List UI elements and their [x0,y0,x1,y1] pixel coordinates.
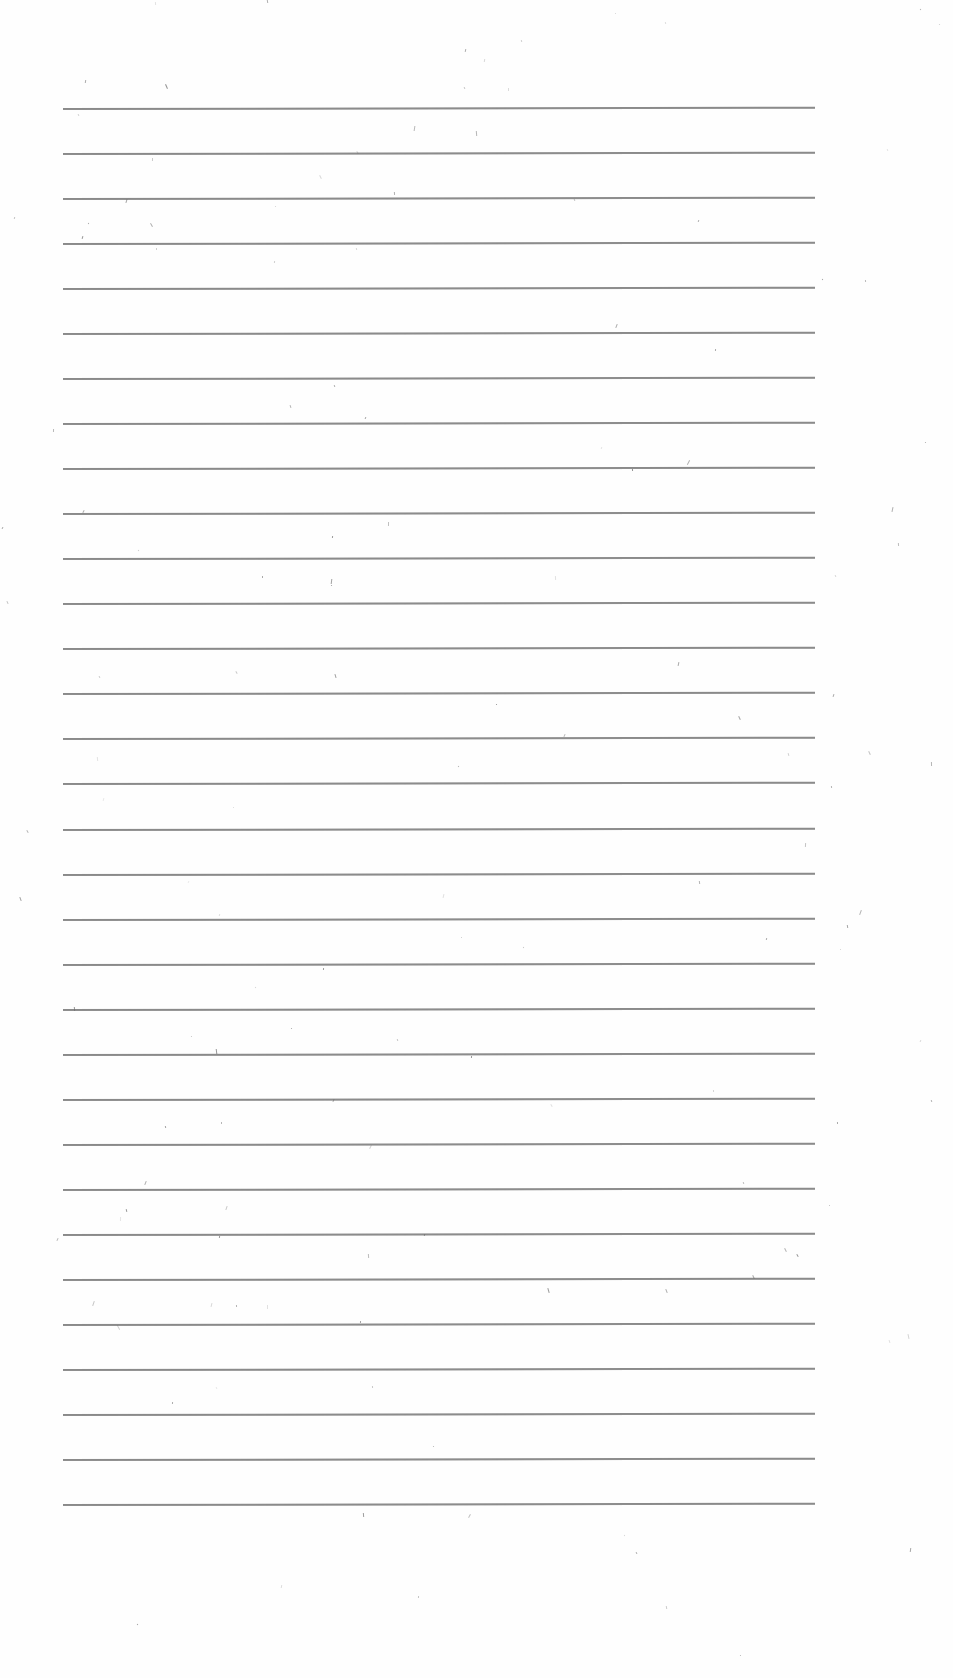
speck [255,987,256,988]
speck [433,1446,434,1447]
speck [476,131,477,136]
speck [665,22,666,24]
speck [233,807,234,808]
speck [743,1182,745,1184]
speck [698,220,700,222]
speck [508,88,509,91]
speck [19,897,21,901]
speck [889,1340,891,1343]
speck [363,1513,364,1517]
ruled-line [63,1008,815,1011]
speck [356,248,357,250]
speck [471,1056,472,1058]
speck [788,753,790,756]
speck [461,937,462,938]
speck [624,1535,625,1536]
speck [267,1305,268,1309]
speck [443,894,445,898]
speck [332,536,333,538]
speck [97,757,98,761]
speck [829,1205,830,1206]
speck [14,217,16,219]
speck [847,925,848,928]
ruled-line [63,332,815,335]
speck [931,1100,933,1102]
speck [920,1040,922,1042]
speck [831,786,832,788]
speck [323,968,324,970]
speck [331,585,332,586]
speck [550,1104,552,1107]
speck [291,1028,292,1029]
speck [907,1334,909,1339]
speck [74,1007,75,1011]
speck [334,674,336,678]
speck [165,1126,166,1128]
speck [88,223,89,224]
speck [221,1122,222,1124]
ruled-line [63,287,815,290]
speck [53,429,54,432]
speck [521,40,523,42]
speck [262,576,263,578]
speck [636,1552,638,1554]
speck [555,576,556,580]
speck [188,881,190,883]
speck [898,543,899,546]
speck [632,469,633,471]
ruled-line [63,737,815,740]
ruled-line [63,422,815,425]
ruled-line [63,782,815,785]
speck [82,236,84,239]
speck [236,1305,237,1307]
speck [92,1301,95,1306]
speck [920,9,921,10]
ruled-line [63,197,815,200]
speck [523,947,524,948]
speck [137,1624,138,1625]
speck [484,59,485,62]
ruled-line [63,1413,815,1416]
speck [665,1289,667,1293]
ruled-line [63,1233,815,1236]
speck [713,1090,714,1092]
speck [666,1606,668,1609]
speck [931,762,932,766]
speck [334,385,336,387]
speck [26,830,28,833]
speck [99,676,101,678]
speck [394,192,395,195]
ruled-line [63,963,815,966]
speck [784,1248,787,1252]
speck [458,766,459,767]
speck [699,881,700,884]
speck [859,910,862,915]
speck [368,1254,369,1258]
ruled-line [63,602,815,605]
speck [822,279,823,280]
ruled-line [63,1053,815,1056]
speck [103,798,105,801]
speck [837,1122,838,1124]
speck [939,24,940,25]
ruled-line [63,557,815,560]
speck [424,1234,425,1236]
speck [191,1036,192,1037]
ruled-line [63,692,815,695]
speck [275,206,276,207]
speck [752,1275,755,1279]
ruled-line [63,242,815,245]
speck [465,49,467,52]
speck [219,1236,220,1238]
speck [372,1386,373,1388]
speck [574,199,576,201]
speck [56,1238,58,1241]
speck [418,1596,419,1598]
speck [468,1514,471,1518]
speck [805,843,806,847]
ruled-line [63,107,815,110]
speck [152,158,153,161]
speck [274,261,275,263]
speck [925,442,926,443]
ruled-line [63,1143,815,1146]
